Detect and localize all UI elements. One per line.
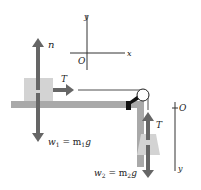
pulley (137, 89, 149, 101)
block1-weight-label: w1 = m1g (48, 137, 91, 148)
physics-diagram: y x O n w1 = m1g T T w2 = m2 (0, 0, 201, 190)
right-axis: O y (172, 102, 187, 173)
block1-tension-arrow (53, 84, 74, 96)
block1-tension-label: T (61, 74, 68, 84)
top-axes: y x O (70, 12, 132, 70)
right-axis-origin-label: O (179, 103, 187, 113)
top-axis-origin-label: O (78, 56, 86, 66)
block2-weight-label: w2 = m2g (94, 168, 137, 179)
right-axis-y-label: y (177, 164, 183, 173)
normal-force-label: n (48, 39, 54, 50)
top-axis-y-label: y (83, 12, 89, 21)
block2-tension-label: T (156, 120, 163, 130)
table (11, 101, 144, 167)
top-axis-x-label: x (127, 49, 132, 58)
